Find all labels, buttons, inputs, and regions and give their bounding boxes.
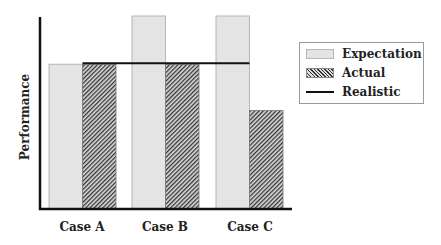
bar-actual — [250, 111, 284, 209]
x-tick-case-b: Case B — [142, 220, 188, 234]
legend-item-expectation: Expectation — [306, 47, 422, 61]
legend: Expectation Actual Realistic — [299, 42, 424, 104]
bar-actual — [83, 64, 117, 209]
actual-hatch-swatch-icon — [306, 68, 334, 78]
x-tick-case-a: Case A — [59, 220, 104, 234]
bar-expectation — [49, 64, 83, 209]
expectation-swatch-icon — [306, 49, 334, 59]
realistic-line-swatch-icon — [306, 91, 334, 93]
legend-label: Actual — [342, 66, 385, 80]
bar-chart — [0, 0, 441, 245]
x-tick-case-c: Case C — [227, 220, 272, 234]
legend-label: Expectation — [342, 47, 422, 61]
legend-item-realistic: Realistic — [306, 85, 401, 99]
y-axis-label: Performance — [18, 74, 32, 160]
bars-group — [49, 16, 283, 209]
legend-label: Realistic — [342, 85, 401, 99]
bar-expectation — [132, 16, 166, 209]
legend-item-actual: Actual — [306, 66, 385, 80]
bar-actual — [166, 64, 200, 209]
bar-expectation — [216, 16, 250, 209]
